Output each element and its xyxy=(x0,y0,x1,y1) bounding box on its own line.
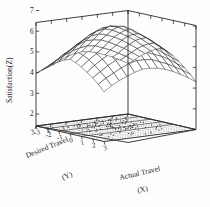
x-tick--3: -3 xyxy=(33,128,41,137)
z-tick-3: 3 xyxy=(30,90,34,98)
z-tick-4: 4 xyxy=(30,69,34,77)
x-tick-1: 1 xyxy=(80,138,86,147)
surface-plot-figure: 765432 3210-1-2-3 -3-2-10123 Satisfactio… xyxy=(0,0,210,207)
x-axis-label: Actual Travel xyxy=(118,164,161,182)
x-tick-3: 3 xyxy=(102,144,108,153)
x-tick-2: 2 xyxy=(91,141,97,150)
y-axis-label-variable: (Y) xyxy=(60,169,74,181)
z-tick-2: 2 xyxy=(30,110,34,118)
z-tick-7: 7 xyxy=(30,7,34,15)
x-axis-label-variable: (X) xyxy=(136,184,149,195)
x-tick--2: -2 xyxy=(45,130,53,139)
z-tick-5: 5 xyxy=(30,48,34,56)
plot-canvas: 765432 3210-1-2-3 -3-2-10123 Satisfactio… xyxy=(0,0,210,207)
surface-mesh xyxy=(36,26,196,92)
z-tick-6: 6 xyxy=(30,28,34,36)
z-axis-label: Satisfaction(Z) xyxy=(5,57,14,103)
x-tick-0: 0 xyxy=(68,136,74,145)
z-axis-tick-labels: 765432 xyxy=(30,7,34,119)
